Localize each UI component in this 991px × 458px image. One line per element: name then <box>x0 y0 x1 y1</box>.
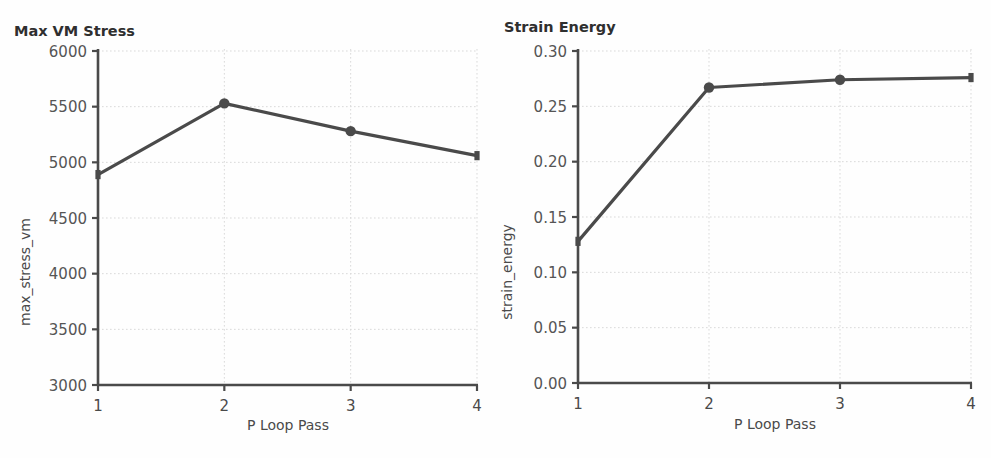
y-tick-label: 0.30 <box>534 43 567 61</box>
y-tick-label: 4000 <box>49 265 87 283</box>
y-tick-label: 0.00 <box>534 375 567 393</box>
gridlines-right <box>578 49 971 383</box>
x-tick-label: 2 <box>704 395 714 413</box>
chart-panel-max-vm-stress: Max VM Stress 30003500400045005000550060… <box>0 0 500 458</box>
y-axis-label-left: max_stress_vm <box>17 218 33 326</box>
chart-panel-strain-energy: Strain Energy 0.000.050.100.150.200.250.… <box>490 0 991 458</box>
gridlines-left <box>98 49 477 385</box>
chart-canvas: Max VM Stress 30003500400045005000550060… <box>0 0 991 458</box>
x-tick-label: 3 <box>835 395 845 413</box>
y-tick-label: 0.15 <box>534 209 567 227</box>
y-tick-label: 0.20 <box>534 153 567 171</box>
x-tick-label: 1 <box>573 395 583 413</box>
x-axis-ticks-right: 1234 <box>573 383 976 413</box>
y-tick-label: 0.10 <box>534 264 567 282</box>
x-tick-label: 1 <box>93 397 103 415</box>
data-point-marker <box>345 126 355 136</box>
data-point-marker <box>219 98 229 108</box>
y-axis-label-right: strain_energy <box>499 224 515 320</box>
y-tick-label: 3500 <box>49 321 87 339</box>
data-line-left <box>98 103 477 174</box>
y-tick-label: 0.25 <box>534 98 567 116</box>
chart-title-right: Strain Energy <box>504 19 616 35</box>
data-markers-right <box>575 73 973 246</box>
chart-title-left: Max VM Stress <box>14 23 135 39</box>
data-point-marker <box>95 170 100 179</box>
x-tick-label: 4 <box>966 395 976 413</box>
x-axis-label-left: P Loop Pass <box>247 417 329 433</box>
y-tick-label: 0.05 <box>534 319 567 337</box>
data-point-marker <box>474 151 479 160</box>
x-axis-label-right: P Loop Pass <box>734 416 816 432</box>
data-point-marker <box>704 82 714 92</box>
y-axis-ticks-right: 0.000.050.100.150.200.250.30 <box>534 43 578 393</box>
x-tick-label: 3 <box>346 397 356 415</box>
max-vm-stress-plot[interactable]: Max VM Stress 30003500400045005000550060… <box>0 0 500 458</box>
y-tick-label: 3000 <box>49 377 87 395</box>
data-point-marker <box>835 75 845 85</box>
y-tick-label: 5500 <box>49 98 87 116</box>
x-axis-ticks-left: 1234 <box>93 385 482 415</box>
y-tick-label: 6000 <box>49 43 87 61</box>
data-point-marker <box>575 237 580 246</box>
strain-energy-plot[interactable]: Strain Energy 0.000.050.100.150.200.250.… <box>490 0 991 458</box>
y-tick-label: 5000 <box>49 154 87 172</box>
data-markers-left <box>95 98 479 179</box>
y-axis-ticks-left: 3000350040004500500055006000 <box>49 43 98 395</box>
data-point-marker <box>968 73 973 82</box>
y-tick-label: 4500 <box>49 210 87 228</box>
x-tick-label: 2 <box>220 397 230 415</box>
x-tick-label: 4 <box>472 397 482 415</box>
